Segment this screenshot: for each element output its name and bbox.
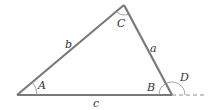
angle-label-C: C	[117, 17, 126, 30]
side-label-c: c	[93, 97, 99, 110]
side-label-a: a	[150, 42, 157, 55]
angle-label-B: B	[146, 81, 155, 94]
angle-A-arc	[32, 82, 37, 95]
triangle-diagram: b a c A B C D	[0, 0, 208, 110]
angle-label-A: A	[37, 79, 46, 92]
angle-B-arc	[159, 84, 166, 96]
side-label-b: b	[65, 38, 72, 51]
angle-label-D: D	[179, 71, 189, 84]
